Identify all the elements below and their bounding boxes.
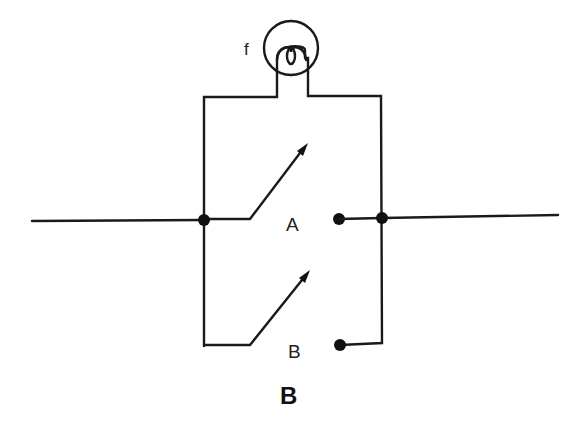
left-bus xyxy=(204,72,277,346)
circuit-diagram: f A B B xyxy=(0,0,579,434)
lamp-icon xyxy=(264,21,318,75)
switch-a-label: A xyxy=(286,214,299,235)
right-junction-node xyxy=(376,212,388,224)
switch-b xyxy=(204,270,310,345)
output-wire xyxy=(382,215,558,218)
figure-caption: B xyxy=(280,382,297,409)
input-wire xyxy=(32,220,204,221)
switch-a xyxy=(204,143,308,219)
switch-a-contact-wire xyxy=(339,218,382,219)
lamp-label: f xyxy=(244,40,249,59)
switch-b-label: B xyxy=(288,341,301,362)
right-bus xyxy=(308,72,382,345)
left-junction-node xyxy=(198,214,210,226)
switch-b-contact xyxy=(334,339,346,351)
